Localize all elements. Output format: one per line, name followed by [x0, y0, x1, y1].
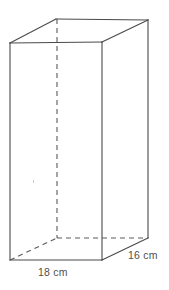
- edge-top-right-diagonal: [102, 20, 148, 42]
- top-face-edges: [10, 19, 148, 43]
- hidden-edges: [10, 19, 148, 260]
- edge-front-top: [10, 42, 102, 43]
- rectangular-prism-drawing: [0, 0, 169, 290]
- width-dimension-label: 18 cm: [38, 266, 68, 278]
- edge-top-left-diagonal: [10, 19, 56, 43]
- depth-dimension-label: 16 cm: [128, 249, 158, 261]
- right-face-edges: [102, 20, 148, 260]
- front-face-edges: [10, 42, 102, 260]
- edge-bottom-left-diagonal-hidden: [10, 238, 57, 260]
- scan-artifact-speck: [33, 180, 34, 183]
- edge-top-back: [56, 19, 148, 20]
- prism-figure: 18 cm 16 cm: [0, 0, 169, 290]
